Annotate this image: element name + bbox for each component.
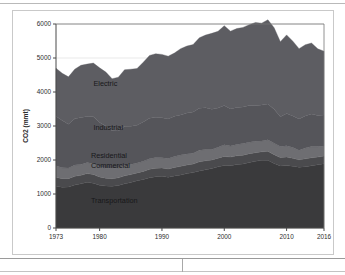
y-tick-label: 0 — [47, 224, 51, 231]
series-label-residential: Residential — [91, 151, 127, 160]
x-tick-label: 2000 — [217, 233, 232, 240]
stacked-area-chart: 0100020003000400050006000 19731980199020… — [12, 10, 334, 255]
series-label-commercial: Commercial — [91, 161, 130, 170]
page-rule-top — [0, 3, 345, 4]
x-tick-label: 2010 — [279, 233, 294, 240]
y-tick-label: 4000 — [37, 88, 52, 95]
y-tick-label: 2000 — [37, 156, 52, 163]
page-column-divider — [182, 259, 183, 272]
y-axis-ticks: 0100020003000400050006000 — [37, 20, 56, 231]
page-rule-bottom-secondary — [0, 271, 345, 272]
series-label-electric: Electric — [93, 79, 117, 88]
x-axis-ticks: 197319801990200020102016 — [49, 228, 332, 240]
series-label-industrial: Industrial — [93, 123, 123, 132]
y-tick-label: 6000 — [37, 20, 52, 27]
y-axis-title-text: CO2 (mmt) — [22, 109, 30, 143]
series-label-transportation: Transportation — [91, 196, 138, 205]
y-tick-label: 3000 — [37, 122, 52, 129]
y-axis-title: CO2 (mmt) — [22, 109, 30, 143]
y-tick-label: 1000 — [37, 190, 52, 197]
y-tick-label: 5000 — [37, 54, 52, 61]
x-tick-label: 1973 — [49, 233, 64, 240]
x-tick-label: 1990 — [155, 233, 170, 240]
page-rule-bottom — [0, 258, 345, 259]
x-tick-label: 1980 — [93, 233, 108, 240]
x-tick-label: 2016 — [317, 233, 332, 240]
